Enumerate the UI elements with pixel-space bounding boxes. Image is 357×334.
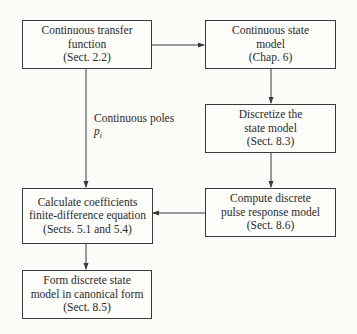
- node-line: Form discrete state: [43, 274, 131, 288]
- pole-symbol: pi: [94, 125, 174, 142]
- node-line: finite-difference equation: [29, 209, 146, 223]
- node-canonical-form: Form discrete state model in canonical f…: [22, 270, 152, 319]
- node-continuous-state-model: Continuous state model (Chap. 6): [205, 20, 336, 69]
- node-line: (Sect. 8.3): [247, 135, 295, 149]
- node-line: (Sect. 8.5): [63, 301, 111, 315]
- node-line: Compute discrete: [230, 192, 311, 206]
- node-calculate-coefficients: Calculate coefficients finite-difference…: [22, 188, 153, 244]
- node-line: Continuous transfer: [41, 24, 132, 38]
- node-line: Calculate coefficients: [38, 196, 138, 210]
- node-discrete-pulse-response-model: Compute discrete pulse response model (S…: [205, 188, 336, 237]
- node-line: (Sects. 5.1 and 5.4): [43, 223, 132, 237]
- edge-label-continuous-poles: Continuous poles pi: [94, 112, 174, 142]
- node-line: state model: [244, 122, 297, 136]
- node-line: model: [256, 38, 285, 52]
- node-discretize-state-model: Discretize the state model (Sect. 8.3): [205, 104, 336, 153]
- node-line: function: [68, 38, 106, 52]
- node-line: (Sect. 2.2): [63, 51, 111, 65]
- node-line: (Sect. 8.6): [247, 219, 295, 233]
- node-line: model in canonical form: [31, 288, 144, 302]
- edge-label-text: Continuous poles: [94, 112, 174, 125]
- node-continuous-transfer-function: Continuous transfer function (Sect. 2.2): [22, 20, 152, 69]
- node-line: Discretize the: [239, 108, 303, 122]
- node-line: (Chap. 6): [249, 51, 292, 65]
- node-line: pulse response model: [221, 206, 320, 220]
- node-line: Continuous state: [232, 24, 309, 38]
